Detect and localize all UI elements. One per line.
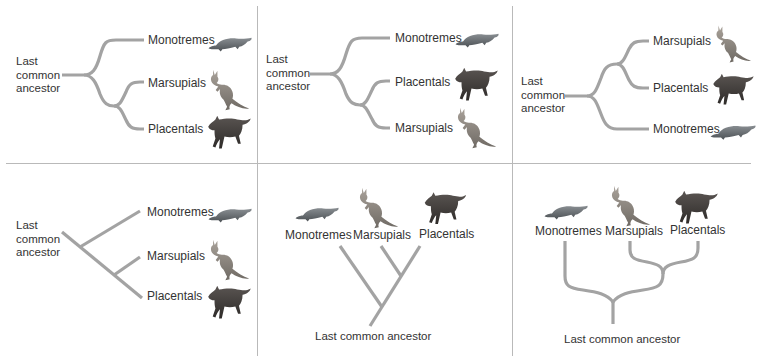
ancestor-label: Last common ancestor (266, 53, 310, 94)
tree-panel-bottom-left: Last common ancestor Monotremes Marsupia… (0, 164, 257, 361)
ancestor-label-line: Last (266, 53, 310, 67)
ancestor-label-line: common (266, 67, 310, 81)
wolf-icon (453, 66, 499, 104)
tip-label-marsupials: Marsupials (148, 76, 206, 90)
tip-label-placentals: Placentals (148, 122, 203, 136)
platypus-icon (207, 204, 253, 224)
tip-label-placentals: Placentals (419, 227, 474, 241)
tree-panel-top-middle: Last common ancestor Monotremes Placenta… (258, 0, 512, 163)
wolf-icon (206, 284, 252, 322)
ancestor-label: Last common ancestor (16, 55, 60, 96)
ancestor-label-line: ancestor (266, 80, 310, 94)
ancestor-label-line: ancestor (16, 82, 60, 96)
ancestor-label-line: Last (16, 55, 60, 69)
tip-label-placentals: Placentals (670, 223, 725, 237)
ancestor-label-line: common (16, 233, 60, 247)
kangaroo-icon (205, 238, 251, 282)
tip-label-marsupials: Marsupials (653, 34, 711, 48)
tip-label-marsupials: Marsupials (605, 224, 663, 238)
tip-label-placentals: Placentals (147, 289, 202, 303)
tip-label-marsupials: Marsupials (395, 121, 453, 135)
platypus-icon (294, 202, 340, 224)
platypus-icon (207, 33, 253, 53)
tip-label-monotremes: Monotremes (285, 228, 352, 242)
tip-label-monotremes: Monotremes (148, 33, 215, 47)
kangaroo-icon (354, 186, 400, 230)
tip-label-placentals: Placentals (653, 81, 708, 95)
ancestor-label-line: Last (521, 75, 565, 89)
wolf-icon (673, 189, 719, 227)
ancestor-label-line: ancestor (16, 246, 60, 260)
tree-panel-bottom-right: Monotremes Marsupials Placentals Last co… (513, 164, 776, 361)
tip-label-monotremes: Monotremes (395, 31, 462, 45)
ancestor-label-line: ancestor (521, 102, 565, 116)
platypus-icon (709, 120, 757, 142)
wolf-icon (206, 114, 252, 152)
ancestor-label: Last common ancestor (16, 219, 60, 260)
tip-label-marsupials: Marsupials (353, 228, 411, 242)
kangaroo-icon (606, 184, 652, 228)
platypus-icon (543, 200, 589, 222)
tip-label-marsupials: Marsupials (147, 249, 205, 263)
wolf-icon (423, 190, 467, 228)
tip-label-monotremes: Monotremes (147, 205, 214, 219)
ancestor-label-line: common (16, 69, 60, 83)
kangaroo-icon (452, 106, 498, 150)
wolf-icon (711, 72, 755, 108)
platypus-icon (454, 29, 500, 49)
ancestor-label-line: Last (16, 219, 60, 233)
ancestor-label-line: common (521, 89, 565, 103)
tree-panel-bottom-middle: Monotremes Marsupials Placentals Last co… (258, 164, 512, 361)
ancestor-label: Last common ancestor (564, 332, 680, 346)
ancestor-label: Last common ancestor (521, 75, 565, 116)
kangaroo-icon (205, 68, 251, 112)
kangaroo-icon (709, 24, 755, 64)
tree-panel-top-right: Last common ancestor Marsupials Placenta… (513, 0, 776, 163)
tree-panel-top-left: Last common ancestor Monotremes Marsupia… (0, 0, 257, 163)
tip-label-placentals: Placentals (395, 75, 450, 89)
ancestor-label: Last common ancestor (315, 329, 431, 343)
tip-label-monotremes: Monotremes (535, 224, 602, 238)
